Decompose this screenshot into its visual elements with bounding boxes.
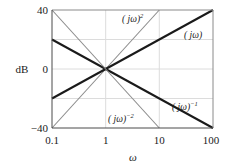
curve-label-jw-inverse-squared-exponent: −2 [126, 112, 134, 119]
y-tick-label-0: 0 [43, 63, 49, 75]
curve-label-jw-inverse-base: ( jω) [172, 102, 190, 113]
curve-label-jw-inverse-squared-base: ( jω) [108, 114, 126, 125]
figure-container: 40 0 −40 dB 0.1 1 10 100 ω ( jω)2 ( jω) … [0, 0, 228, 167]
x-tick-label-0-1: 0.1 [45, 134, 59, 146]
x-tick-label-100: 100 [203, 134, 220, 146]
x-tick-label-10: 10 [154, 134, 166, 146]
curve-label-jw-base: ( jω) [184, 30, 202, 41]
curve-label-jw-inverse-exponent: −1 [190, 100, 198, 107]
curve-label-jw-squared-base: ( jω) [122, 14, 140, 25]
curve-label-jw: ( jω) [184, 30, 202, 41]
x-tick-label-1: 1 [103, 134, 109, 146]
y-tick-label-40: 40 [37, 4, 49, 16]
y-tick-label-minus40: −40 [31, 122, 49, 134]
bode-plot-svg: 40 0 −40 dB 0.1 1 10 100 ω ( jω)2 ( jω) … [0, 0, 228, 167]
x-axis-title: ω [129, 151, 137, 163]
y-axis-title: dB [16, 63, 29, 75]
